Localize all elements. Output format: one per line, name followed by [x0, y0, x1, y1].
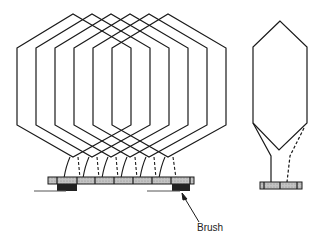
- brush-label: Brush: [197, 222, 223, 233]
- coils-group: [17, 14, 226, 157]
- brush-left: [57, 184, 77, 191]
- brush-pointer-arrow: [182, 193, 199, 222]
- brush-right: [172, 184, 190, 191]
- commutator: [48, 177, 194, 184]
- brushes: [34, 184, 190, 191]
- armature-winding-diagram: [0, 0, 318, 244]
- single-coil-view: [253, 21, 307, 189]
